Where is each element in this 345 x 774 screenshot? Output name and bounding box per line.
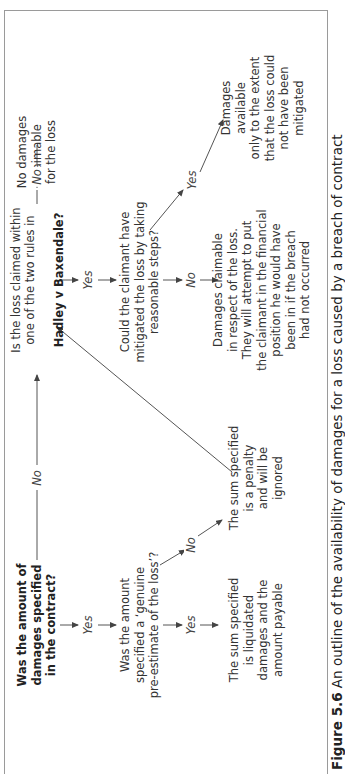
question-mitigate: Could the claimant have mitigated the lo… [118,201,162,362]
edge-label-hadley-no: No [30,167,44,187]
question-hadley-baxendale: Is the loss claimed within one of the tw… [0,207,81,352]
edge-label-amount-yes: Yes [81,614,95,637]
edge-label-preestimate-yes: Yes [184,614,198,637]
question-amount-specified: Was the amount of damages specified in t… [15,564,59,687]
question-hadley-case-name: Hadley v Baxendale? [52,207,67,352]
result-penalty: The sum specified is a penalty and will … [227,426,285,531]
edge-label-mitigate-yes: Yes [185,169,199,192]
edge-label-hadley-yes: Yes [81,269,95,292]
edge-label-mitigate-no: No [184,270,198,290]
edge-label-amount-no: No [30,468,44,488]
result-liquidated-damages: The sum specified is liquidated damages … [227,578,285,683]
result-damages-claimable: Damages claimable in respect of the loss… [211,209,313,370]
question-genuine-preestimate: Was the amount specified a ‘genuine pre-… [118,552,162,699]
result-mitigated-damages: Damages available only to the extent tha… [219,54,306,162]
question-hadley-text: Is the loss claimed within one of the tw… [8,207,37,352]
figure-caption-text: An outline of the availability of damage… [329,134,345,688]
figure-number: Figure 5.6 [329,692,345,770]
figure-caption: Figure 5.6 An outline of the availabilit… [329,134,345,770]
edge-label-preestimate-no: No [184,535,198,555]
